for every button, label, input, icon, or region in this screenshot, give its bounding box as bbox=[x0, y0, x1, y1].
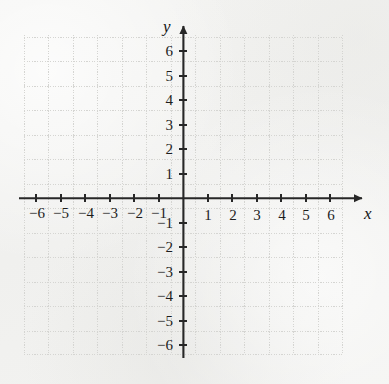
x-tick-label-3: 3 bbox=[253, 208, 261, 223]
x-tick-label-4: 4 bbox=[278, 208, 286, 223]
x-tick-label-neg6: −6 bbox=[29, 206, 45, 221]
y-tick-label-neg2: −2 bbox=[148, 240, 173, 255]
y-tick-label-3: 3 bbox=[152, 118, 173, 133]
x-tick-label-neg4: −4 bbox=[78, 206, 94, 221]
x-tick-label-neg1: −1 bbox=[151, 206, 167, 221]
x-axis-label: x bbox=[364, 205, 372, 222]
x-tick-label-neg2: −2 bbox=[127, 206, 143, 221]
coordinate-plane-figure: 6 5 4 3 2 1 −1 −2 −3 −4 −5 −6 −6 −5 −4 −… bbox=[0, 0, 389, 384]
x-tick-label-neg5: −5 bbox=[53, 206, 69, 221]
y-axis-label: y bbox=[163, 18, 171, 35]
x-tick-label-5: 5 bbox=[302, 208, 310, 223]
y-tick-label-6: 6 bbox=[152, 44, 173, 59]
y-tick-label-neg6: −6 bbox=[148, 338, 173, 353]
x-tick-label-neg3: −3 bbox=[102, 206, 118, 221]
coordinate-plane-svg bbox=[0, 0, 389, 384]
y-tick-label-5: 5 bbox=[152, 69, 173, 84]
y-tick-label-neg3: −3 bbox=[148, 265, 173, 280]
y-tick-label-neg4: −4 bbox=[148, 289, 173, 304]
x-tick-label-6: 6 bbox=[327, 208, 335, 223]
x-tick-label-2: 2 bbox=[229, 208, 237, 223]
y-tick-label-neg5: −5 bbox=[148, 314, 173, 329]
axis-lines bbox=[19, 26, 362, 358]
y-tick-label-2: 2 bbox=[152, 142, 173, 157]
y-tick-label-4: 4 bbox=[152, 93, 173, 108]
y-tick-label-1: 1 bbox=[152, 167, 173, 182]
x-tick-label-1: 1 bbox=[204, 208, 212, 223]
